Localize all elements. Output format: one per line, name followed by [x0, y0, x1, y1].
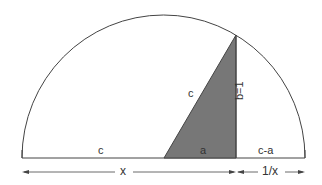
diagram-graphics — [0, 0, 322, 185]
semicircle-arc — [22, 15, 305, 158]
height-label: b=1 — [234, 81, 245, 100]
inv-x-arrow-label: 1/x — [262, 165, 278, 177]
shaded-triangle — [164, 35, 236, 158]
inv-x-arrow-head-left-icon — [237, 170, 244, 174]
inv-x-arrow-head-right-icon — [298, 170, 305, 174]
semicircle-diagram: c c a c-a b=1 x 1/x — [0, 0, 322, 185]
left-segment-label: c — [98, 145, 104, 156]
x-arrow-head-left-icon — [22, 170, 29, 174]
x-arrow-label: x — [120, 165, 126, 177]
right-segment-label: c-a — [258, 145, 273, 156]
x-arrow-head-right-icon — [229, 170, 236, 174]
triangle-base-label: a — [200, 145, 206, 156]
hypotenuse-label: c — [188, 88, 194, 99]
